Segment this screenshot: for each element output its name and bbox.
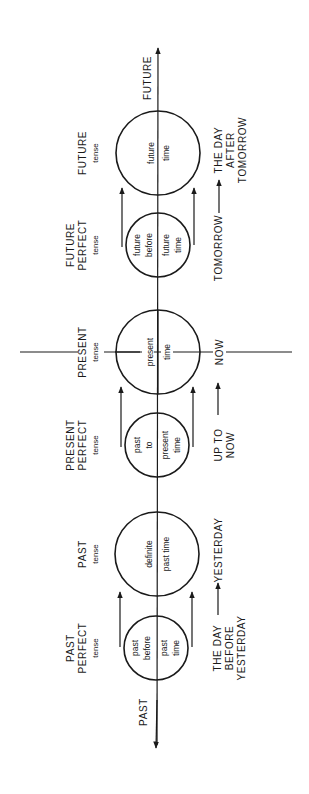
present-perfect-tense-name-3: tense — [91, 435, 100, 455]
past-axis-label: PAST — [138, 698, 149, 726]
future-perfect-tense-name-2: PERFECT — [77, 220, 88, 271]
present-perfect-tense-name-1: PRESENT — [65, 419, 76, 470]
time-axis — [157, 48, 158, 745]
future-circle-left-1: future — [146, 142, 156, 164]
past-perfect-tense-name-3: tense — [91, 638, 100, 658]
future-time-label-2: AFTER — [225, 132, 236, 168]
future-perfect-circle-right-2: time — [173, 237, 183, 253]
future-axis-label: FUTURE — [142, 56, 153, 100]
future-tense-name-1: FUTURE — [77, 131, 88, 175]
present-tense-name-1: PRESENT — [77, 326, 88, 377]
future-perfect-tense-name-3: tense — [91, 235, 100, 255]
present-perfect-circle-left-1: past — [132, 436, 142, 453]
present-perfect-circle-right-2: time — [172, 437, 182, 453]
tense-timeline-diagram: FUTURE PAST FUTURE tense future time THE… — [0, 0, 309, 794]
past-circle-left-1: definite — [144, 540, 154, 568]
future-perfect-time-label-1: TOMORROW — [213, 215, 224, 281]
future-perfect-circle-right-1: future — [161, 234, 171, 256]
past-perfect-time-label-2: BEFORE — [224, 626, 235, 671]
future-perfect-circle-left-2: before — [144, 233, 154, 257]
past-perfect-circle-right-1: past — [159, 639, 169, 656]
future-circle-right-1: time — [161, 145, 171, 161]
past-perfect-time-label-3: YESTERDAY — [236, 615, 247, 680]
past-time-label-1: YESTERDAY — [213, 517, 224, 582]
past-tense-name-1: PAST — [77, 540, 88, 568]
past-perfect-tense-name-2: PERFECT — [77, 623, 88, 674]
past-perfect-circle-left-1: past — [130, 639, 140, 656]
future-time-label-1: THE DAY — [213, 127, 224, 174]
past-perfect-circle-right-2: time — [171, 640, 181, 656]
present-perfect-circle-right-1: present — [160, 430, 170, 459]
future-perfect-tense-name-1: FUTURE — [65, 223, 76, 267]
present-perfect-tense-name-2: PERFECT — [77, 420, 88, 471]
past-perfect-time-label-1: THE DAY — [212, 625, 223, 672]
present-circle-left-1: present — [145, 337, 155, 366]
past-circle-right-1: past time — [161, 536, 171, 571]
past-perfect-circle-left-2: before — [142, 636, 152, 660]
future-perfect-circle-left-1: future — [132, 234, 142, 256]
past-tense-name-2: tense — [91, 544, 100, 564]
present-tense-name-2: tense — [91, 342, 100, 362]
future-time-label-3: TOMORROW — [237, 117, 248, 183]
past-perfect-tense-name-1: PAST — [65, 634, 76, 662]
present-time-label-1: NOW — [214, 339, 225, 365]
present-perfect-time-label-1: UP TO — [213, 428, 224, 461]
present-circle-right-1: time — [162, 344, 172, 360]
present-perfect-time-label-2: NOW — [225, 432, 236, 458]
present-perfect-circle-left-2: to — [144, 441, 154, 448]
future-tense-name-2: tense — [91, 143, 100, 163]
